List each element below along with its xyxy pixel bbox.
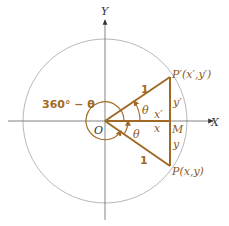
point-p-label: P(x,y) — [171, 165, 204, 178]
x-prime-label: x′ — [154, 108, 163, 121]
point-p-prime-label: P′(x′,y′) — [171, 68, 211, 81]
triangles — [105, 77, 170, 166]
radius-lower-label: 1 — [140, 154, 148, 167]
y-axis-label: Y — [101, 5, 110, 18]
angle-arc-theta-lower — [124, 121, 128, 134]
theta-lower-label: θ — [133, 128, 140, 141]
y-label: y — [172, 138, 180, 151]
unit-circle-diagram: Y X O P′(x′,y′) P(x,y) M 1 1 x′ x y′ y θ… — [0, 0, 229, 226]
y-prime-label: y′ — [172, 96, 182, 109]
point-m-label: M — [171, 123, 184, 136]
x-axis-label: X — [210, 116, 220, 129]
theta-upper-label: θ — [142, 104, 149, 117]
reflex-angle-label: 360° − θ — [42, 98, 95, 111]
angle-arc-theta-upper — [134, 101, 140, 121]
origin-label: O — [94, 124, 103, 137]
radius-upper-label: 1 — [141, 83, 149, 96]
x-label: x — [154, 122, 161, 135]
